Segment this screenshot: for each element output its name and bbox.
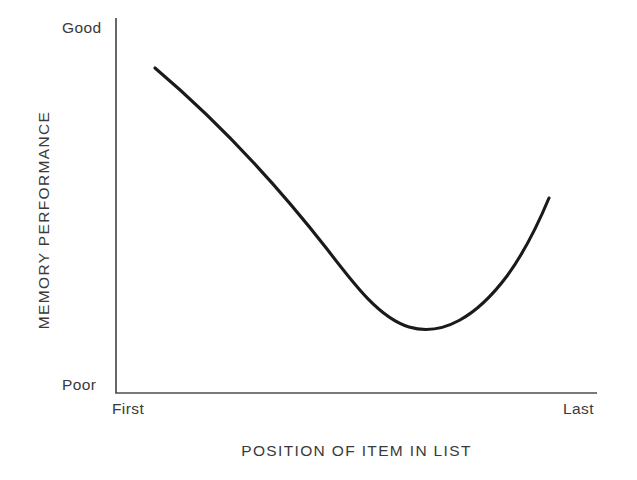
x-axis-tick-first: First: [112, 401, 144, 417]
y-axis-tick-good: Good: [62, 20, 102, 36]
serial-position-chart: Good Poor First Last MEMORY PERFORMANCE …: [0, 0, 637, 480]
y-axis-title: MEMORY PERFORMANCE: [36, 30, 58, 410]
y-axis-tick-poor: Poor: [62, 377, 96, 393]
serial-position-curve: [155, 68, 549, 329]
x-axis-tick-last: Last: [563, 401, 594, 417]
plot-canvas: [0, 0, 637, 480]
x-axis-title: POSITION OF ITEM IN LIST: [116, 443, 597, 459]
